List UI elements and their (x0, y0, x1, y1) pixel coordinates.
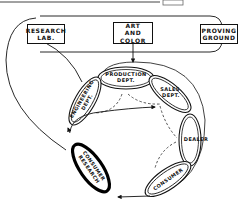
dashed-feedback-sales-dealer (160, 106, 177, 138)
flow-arrow-up-engineering (68, 128, 70, 133)
link-consumer: CONSUMER (140, 155, 196, 202)
production-label-2: DEPT. (117, 77, 135, 83)
research-lab-box: RESEARCH LAB. (27, 24, 65, 44)
ground-label: GROUND (202, 34, 237, 42)
link-engineering-dept: ENGINEERING DEPT. (63, 73, 107, 130)
sales-label-2: DEPT. (162, 92, 180, 98)
art-and-color-box: ART AND COLOR (113, 22, 153, 44)
research-lab-label-2: LAB. (26, 34, 67, 42)
color-label: COLOR (120, 37, 146, 45)
link-production-dept: PRODUCTION DEPT. (98, 67, 154, 89)
research-to-engineering-curve (44, 42, 82, 82)
link-consumer-research: CONSUMER RESEARCH (66, 139, 116, 197)
proving-label: PROVING (202, 27, 237, 35)
consumer-research-cycle-diagram: PRODUCTION DEPT. SALES DEPT. DEALER CONS… (0, 0, 249, 211)
dealer-label: DEALER (184, 136, 208, 142)
dashed-feedback-production-sales (128, 94, 160, 104)
research-lab-label-1: RESEARCH (26, 27, 67, 35)
and-label: AND (120, 29, 146, 37)
art-label: ART (120, 22, 146, 30)
proving-ground-box: PROVING GROUND (200, 24, 238, 44)
flow-arrow-to-consumer-research (118, 196, 150, 197)
top-tab-shape (163, 0, 183, 5)
